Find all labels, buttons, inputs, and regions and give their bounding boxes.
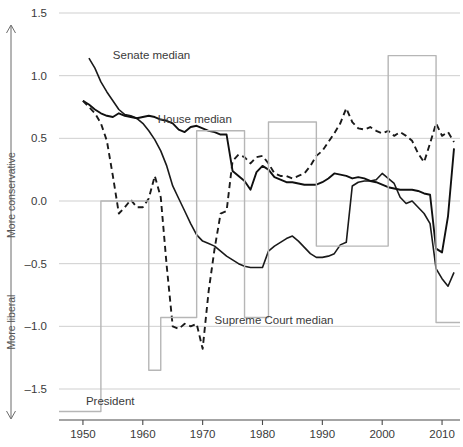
y-tick-label: 1.5 xyxy=(31,7,47,19)
y-tick-labels-group: 1.51.00.50.0–0.5–1.0–1.5 xyxy=(25,7,47,395)
series-label-house-median: House median xyxy=(158,113,232,125)
x-tick-label: 2010 xyxy=(429,428,455,440)
series-label-senate-median: Senate median xyxy=(113,49,190,61)
y-direction-axis-group: More conservative More liberal xyxy=(5,25,17,419)
y-tick-label: 1.0 xyxy=(31,70,47,82)
y-tick-label: 0.0 xyxy=(31,195,47,207)
x-tick-label: 1970 xyxy=(190,428,216,440)
x-tick-label: 1990 xyxy=(310,428,336,440)
x-tick-label: 1980 xyxy=(250,428,276,440)
x-tick-label: 1950 xyxy=(70,428,96,440)
x-tick-labels-group: 1950196019701980199020002010 xyxy=(70,428,455,440)
y-axis-label-liberal: More liberal xyxy=(5,295,17,350)
chart-svg: 1.51.00.50.0–0.5–1.0–1.5 195019601970198… xyxy=(0,0,463,447)
x-tick-label: 2000 xyxy=(369,428,395,440)
x-axis-group xyxy=(59,420,460,425)
chart-figure: 1.51.00.50.0–0.5–1.0–1.5 195019601970198… xyxy=(0,0,463,447)
y-tick-label: 0.5 xyxy=(31,132,47,144)
y-tick-label: –1.5 xyxy=(25,383,47,395)
series-label-president: President xyxy=(86,395,135,407)
series-group xyxy=(59,56,460,412)
series-label-supreme-court-median: Supreme Court median xyxy=(215,314,334,326)
series-annotations-group: Senate medianHouse medianSupreme Court m… xyxy=(86,49,334,407)
x-tick-label: 1960 xyxy=(130,428,156,440)
y-axis-label-conservative: More conservative xyxy=(5,152,17,238)
y-tick-label: –1.0 xyxy=(25,320,47,332)
y-tick-label: –0.5 xyxy=(25,258,47,270)
